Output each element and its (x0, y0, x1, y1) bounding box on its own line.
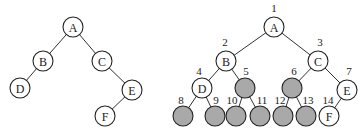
tree-node-b: B (216, 51, 236, 71)
node-index-label: 7 (346, 65, 352, 77)
filled-node-circle (226, 106, 246, 126)
node-index-label: 3 (317, 36, 323, 48)
node-label: D (198, 82, 207, 96)
filled-node-circle (273, 106, 293, 126)
tree-node-empty-8 (173, 106, 193, 126)
node-index-label: 11 (257, 94, 268, 106)
node-index-label: 5 (243, 65, 249, 77)
node-label: C (314, 55, 322, 69)
node-label: D (16, 82, 25, 96)
node-label: E (343, 84, 350, 98)
tree-node-a: A (63, 17, 83, 37)
node-index-label: 14 (323, 94, 335, 106)
filled-node-circle (235, 78, 255, 98)
filled-node-circle (173, 106, 193, 126)
node-index-label: 9 (213, 94, 219, 106)
tree-node-empty-11 (250, 106, 270, 126)
node-label: B (222, 55, 230, 69)
tree-node-c: C (92, 51, 112, 71)
node-index-label: 13 (303, 94, 315, 106)
left-tree-nodes: ABCDEF (10, 17, 142, 126)
node-index-label: 1 (271, 2, 277, 14)
node-index-label: 6 (291, 65, 297, 77)
binary-tree-diagram: ABCDEF ABCDEF 1234567891011121314 (0, 0, 364, 139)
node-label: C (98, 55, 106, 69)
node-label: F (102, 110, 109, 124)
tree-node-empty-5 (235, 78, 255, 98)
filled-node-circle (250, 106, 270, 126)
node-label: A (270, 21, 279, 35)
tree-node-d: D (192, 78, 212, 98)
tree-node-empty-10 (226, 106, 246, 126)
left-tree-edges (20, 27, 132, 116)
tree-node-e: E (122, 80, 142, 100)
tree-node-empty-13 (296, 106, 316, 126)
tree-node-c: C (308, 51, 328, 71)
node-index-label: 2 (222, 36, 228, 48)
right-complete-binary-tree: ABCDEF 1234567891011121314 (173, 2, 357, 126)
tree-node-a: A (264, 17, 284, 37)
tree-node-f: F (95, 106, 115, 126)
tree-node-d: D (10, 78, 30, 98)
filled-node-circle (205, 106, 225, 126)
tree-node-f: F (319, 106, 339, 126)
node-index-label: 10 (227, 94, 239, 106)
tree-node-e: E (337, 80, 357, 100)
node-label: E (128, 84, 135, 98)
node-index-label: 4 (196, 65, 202, 77)
node-index-label: 8 (178, 94, 184, 106)
node-index-label: 12 (275, 94, 286, 106)
node-label: A (69, 21, 78, 35)
node-label: B (39, 55, 47, 69)
filled-node-circle (296, 106, 316, 126)
tree-node-empty-9 (205, 106, 225, 126)
tree-node-empty-12 (273, 106, 293, 126)
left-binary-tree: ABCDEF (10, 17, 142, 126)
tree-node-b: B (33, 51, 53, 71)
node-label: F (326, 110, 333, 124)
